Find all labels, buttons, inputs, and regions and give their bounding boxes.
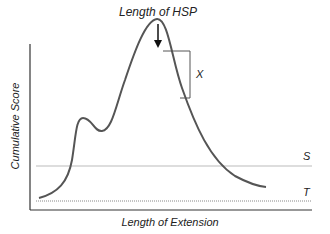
arrow-head-icon bbox=[154, 40, 162, 48]
y-axis-label: Cumulative Score bbox=[9, 83, 21, 170]
cumulative-score-curve bbox=[39, 19, 266, 198]
bracket-x-label: X bbox=[195, 68, 204, 80]
line-s-label: S bbox=[303, 150, 311, 162]
x-axis-label: Length of Extension bbox=[121, 216, 218, 228]
hsp-length-label: Length of HSP bbox=[119, 5, 197, 19]
hsp-extension-diagram: Length of HSP X S T Cumulative Score Len… bbox=[0, 0, 330, 234]
line-t-label: T bbox=[303, 186, 311, 198]
x-bracket bbox=[163, 51, 190, 98]
